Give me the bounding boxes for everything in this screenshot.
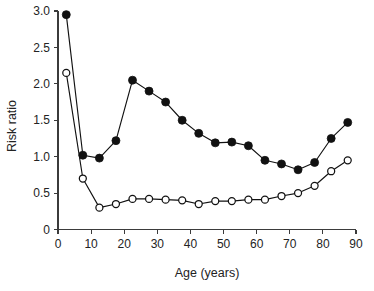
data-point-open-circle-series: [112, 201, 119, 208]
data-point-filled-circle-series: [62, 11, 70, 19]
data-point-open-circle-series: [328, 168, 335, 175]
data-series: [62, 11, 351, 212]
data-point-open-circle-series: [63, 69, 70, 76]
data-point-open-circle-series: [79, 175, 86, 182]
x-axis-title: Age (years): [175, 266, 240, 280]
data-point-open-circle-series: [96, 204, 103, 211]
x-tick-label: 70: [283, 237, 297, 251]
data-point-filled-circle-series: [145, 87, 153, 95]
x-tick-label: 60: [250, 237, 264, 251]
y-axis-title: Risk ratio: [5, 100, 19, 152]
x-tick-label: 20: [118, 237, 132, 251]
data-point-open-circle-series: [278, 193, 285, 200]
data-point-filled-circle-series: [327, 134, 335, 142]
data-point-open-circle-series: [179, 197, 186, 204]
data-point-filled-circle-series: [278, 160, 286, 168]
risk-ratio-line-chart: 00.51.01.52.02.53.00102030405060708090 R…: [0, 0, 374, 291]
x-tick-label: 10: [84, 237, 98, 251]
axes: [54, 11, 357, 235]
x-tick-label: 30: [151, 237, 165, 251]
chart-figure: 00.51.01.52.02.53.00102030405060708090 R…: [0, 0, 374, 291]
series-line-open-circle-series: [66, 73, 347, 208]
x-tick-label: 90: [349, 237, 363, 251]
y-tick-label: 2.0: [33, 77, 50, 91]
x-tick-label: 40: [184, 237, 198, 251]
x-tick-label: 80: [316, 237, 330, 251]
data-point-filled-circle-series: [344, 118, 352, 126]
y-tick-label: 0: [43, 223, 50, 237]
data-point-filled-circle-series: [228, 138, 236, 146]
data-point-open-circle-series: [344, 157, 351, 164]
data-point-filled-circle-series: [294, 166, 302, 174]
y-tick-label: 1.0: [33, 150, 50, 164]
y-tick-label: 1.5: [33, 113, 50, 127]
series-line-filled-circle-series: [66, 15, 347, 170]
y-tick-label: 0.5: [33, 186, 50, 200]
data-point-filled-circle-series: [311, 158, 319, 166]
data-point-filled-circle-series: [211, 139, 219, 147]
data-point-open-circle-series: [212, 198, 219, 205]
data-point-open-circle-series: [228, 198, 235, 205]
data-point-filled-circle-series: [162, 98, 170, 106]
data-point-filled-circle-series: [129, 76, 137, 84]
data-point-filled-circle-series: [178, 116, 186, 124]
data-point-filled-circle-series: [261, 156, 269, 164]
x-tick-label: 50: [217, 237, 231, 251]
data-point-filled-circle-series: [95, 154, 103, 162]
data-point-open-circle-series: [129, 195, 136, 202]
data-point-filled-circle-series: [244, 142, 252, 150]
x-tick-label: 0: [55, 237, 62, 251]
y-tick-label: 2.5: [33, 41, 50, 55]
data-point-open-circle-series: [295, 190, 302, 197]
tick-labels: 00.51.01.52.02.53.00102030405060708090: [33, 4, 363, 250]
data-point-filled-circle-series: [195, 129, 203, 137]
data-point-open-circle-series: [195, 201, 202, 208]
data-point-open-circle-series: [245, 196, 252, 203]
data-point-open-circle-series: [146, 195, 153, 202]
data-point-open-circle-series: [261, 196, 268, 203]
data-point-filled-circle-series: [112, 137, 120, 145]
y-tick-label: 3.0: [33, 4, 50, 18]
data-point-open-circle-series: [311, 182, 318, 189]
data-point-open-circle-series: [162, 196, 169, 203]
